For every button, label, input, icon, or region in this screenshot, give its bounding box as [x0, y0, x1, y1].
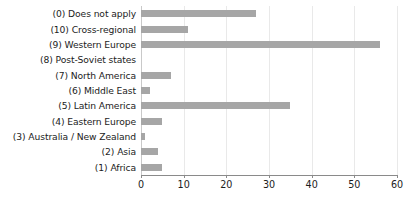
bar [141, 26, 188, 33]
bar [141, 41, 380, 48]
bar-row: (2) Asia [0, 144, 417, 159]
x-axis-ticks: 0102030405060 [0, 175, 417, 200]
bar-row: (3) Australia / New Zealand [0, 129, 417, 144]
bar [141, 10, 256, 17]
category-label: (9) Western Europe [0, 39, 136, 50]
bar-row: (10) Cross-regional [0, 21, 417, 36]
bar-row: (7) North America [0, 67, 417, 82]
bar [141, 72, 171, 79]
category-label: (0) Does not apply [0, 8, 136, 19]
bar-row: (1) Africa [0, 160, 417, 175]
bars-and-labels: (0) Does not apply(10) Cross-regional(9)… [0, 0, 417, 169]
bar-row: (9) Western Europe [0, 37, 417, 52]
bar-row: (6) Middle East [0, 83, 417, 98]
x-tick-label-0: 0 [121, 179, 161, 190]
category-label: (2) Asia [0, 146, 136, 157]
bar [141, 102, 290, 109]
bar [141, 118, 162, 125]
x-tick-label-10: 10 [164, 179, 204, 190]
category-label: (6) Middle East [0, 85, 136, 96]
x-tick-label-50: 50 [334, 179, 374, 190]
category-label: (4) Eastern Europe [0, 116, 136, 127]
x-tick-mark-20 [226, 175, 227, 178]
bar [141, 133, 145, 140]
category-label: (1) Africa [0, 162, 136, 173]
bar-row: (4) Eastern Europe [0, 114, 417, 129]
bar [141, 148, 158, 155]
category-label: (10) Cross-regional [0, 24, 136, 35]
bar [141, 164, 162, 171]
x-tick-mark-0 [141, 175, 142, 178]
x-tick-label-40: 40 [292, 179, 332, 190]
x-tick-mark-50 [354, 175, 355, 178]
category-label: (3) Australia / New Zealand [0, 131, 136, 142]
x-tick-label-20: 20 [206, 179, 246, 190]
x-tick-mark-10 [184, 175, 185, 178]
bar-chart: (0) Does not apply(10) Cross-regional(9)… [0, 0, 417, 200]
bar [141, 87, 150, 94]
x-tick-label-30: 30 [249, 179, 289, 190]
x-tick-mark-60 [397, 175, 398, 178]
category-label: (5) Latin America [0, 100, 136, 111]
category-label: (7) North America [0, 70, 136, 81]
x-tick-mark-40 [312, 175, 313, 178]
x-tick-mark-30 [269, 175, 270, 178]
bar-row: (5) Latin America [0, 98, 417, 113]
bar-row: (0) Does not apply [0, 6, 417, 21]
x-tick-label-60: 60 [377, 179, 417, 190]
category-label: (8) Post-Soviet states [0, 54, 136, 65]
bar-row: (8) Post-Soviet states [0, 52, 417, 67]
